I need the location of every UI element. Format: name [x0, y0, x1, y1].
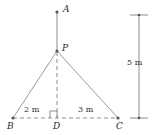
dimension-label-dc: 3 m — [78, 106, 93, 114]
point-a-marker — [55, 10, 58, 13]
scale-bar-top-marker — [138, 14, 141, 17]
point-p-marker — [55, 49, 58, 52]
point-label-a: A — [63, 5, 70, 14]
scale-bar-bottom-marker — [138, 117, 141, 120]
right-angle-marker — [50, 111, 57, 118]
point-label-c: C — [116, 122, 123, 131]
dimension-label-scale: 5 m — [127, 59, 142, 67]
dimension-label-bd: 2 m — [24, 106, 39, 114]
point-label-b: B — [7, 122, 14, 131]
diagram-canvas — [0, 0, 153, 135]
geometry-diagram: A P B D C 2 m 3 m 5 m — [0, 0, 153, 135]
point-label-p: P — [62, 44, 68, 53]
point-c-marker — [116, 116, 119, 119]
point-b-marker — [11, 116, 14, 119]
point-label-d: D — [53, 122, 60, 131]
